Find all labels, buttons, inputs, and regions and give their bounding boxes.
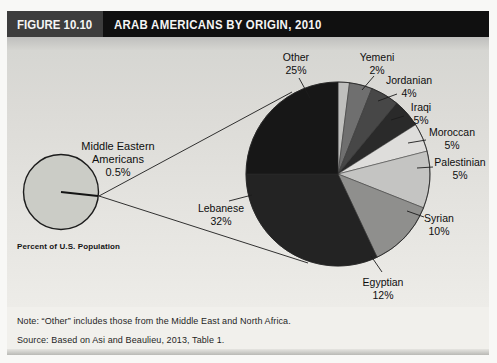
- page: { "figure": { "number": "FIGURE 10.10", …: [0, 0, 497, 363]
- figure-number-badge: FIGURE 10.10: [7, 11, 103, 37]
- slice-value-label: 5%: [410, 139, 494, 152]
- pie-label-palestinian: Palestinian 5%: [425, 156, 495, 181]
- leader-lebanese: [229, 195, 252, 201]
- slice-name-label: Jordanian: [367, 74, 451, 87]
- pie-label-jordanian: Jordanian 4%: [367, 74, 451, 99]
- figure-box: FIGURE 10.10 ARAB AMERICANS BY ORIGIN, 2…: [7, 11, 489, 355]
- figure-title-bar: FIGURE 10.10 ARAB AMERICANS BY ORIGIN, 2…: [7, 11, 489, 37]
- slice-value-label: 4%: [367, 87, 451, 100]
- figure-bottom-edge: [7, 349, 489, 355]
- leader-egyptian: [371, 256, 382, 272]
- pie-label-iraqi: Iraqi 5%: [386, 101, 456, 126]
- mini-circle-label: Middle Eastern Americans 0.5%: [68, 140, 168, 179]
- chart-area: Middle Eastern Americans 0.5% Percent of…: [7, 37, 489, 307]
- slice-name-label: Yemeni: [342, 51, 412, 64]
- mini-circle-value: 0.5%: [68, 166, 168, 179]
- pie-label-other: Other 25%: [261, 51, 331, 76]
- notes-section: Note: “Other” includes those from the Mi…: [7, 307, 489, 349]
- note-text: Note: “Other” includes those from the Mi…: [17, 316, 489, 326]
- source-text: Source: Based on Asi and Beaulieu, 2013,…: [17, 335, 489, 345]
- mini-circle-name: Middle Eastern Americans: [68, 140, 168, 166]
- slice-value-label: 10%: [404, 225, 474, 238]
- slice-value-label: 32%: [186, 215, 256, 228]
- slice-value-label: 12%: [348, 289, 418, 302]
- mini-circle-caption: Percent of U.S. Population: [17, 242, 120, 251]
- slice-name-label: Moroccan: [410, 126, 494, 139]
- slice-name-label: Palestinian: [425, 156, 495, 169]
- slice-name-label: Egyptian: [348, 276, 418, 289]
- pie-label-lebanese: Lebanese 32%: [186, 202, 256, 227]
- slice-name-label: Iraqi: [386, 101, 456, 114]
- pie-label-egyptian: Egyptian 12%: [348, 276, 418, 301]
- slice-name-label: Other: [261, 51, 331, 64]
- pie-label-moroccan: Moroccan 5%: [410, 126, 494, 151]
- slice-value-label: 25%: [261, 64, 331, 77]
- slice-name-label: Syrian: [404, 212, 474, 225]
- pie-slice-other: [246, 82, 338, 174]
- slice-value-label: 5%: [425, 169, 495, 182]
- slice-value-label: 5%: [386, 114, 456, 127]
- slice-name-label: Lebanese: [186, 202, 256, 215]
- figure-number: FIGURE 10.10: [17, 17, 92, 32]
- pie-label-syrian: Syrian 10%: [404, 212, 474, 237]
- pie-label-yemeni: Yemeni 2%: [342, 51, 412, 76]
- figure-title: ARAB AMERICANS BY ORIGIN, 2010: [103, 11, 350, 37]
